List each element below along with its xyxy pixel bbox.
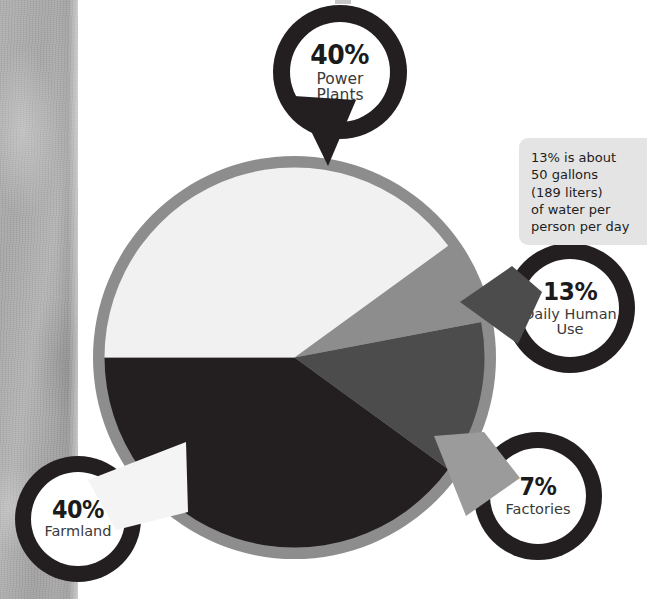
infographic-canvas: 40% Power Plants 13% Daily Human Use 7% …: [0, 0, 647, 599]
annotation-note-daily-human-use: 13% is about 50 gallons (189 liters) of …: [519, 138, 647, 245]
annotation-text: 13% is about 50 gallons (189 liters) of …: [531, 149, 638, 235]
badge-percent: 13%: [543, 279, 597, 305]
badge-percent: 7%: [520, 475, 557, 500]
badge-percent: 40%: [311, 41, 370, 69]
pointer-daily-human-use: [458, 262, 544, 348]
pointer-farmland: [86, 440, 190, 532]
cropped-title-fragment: [335, 0, 351, 4]
pointer-power-plants: [288, 94, 362, 168]
pointer-factories: [432, 430, 522, 522]
